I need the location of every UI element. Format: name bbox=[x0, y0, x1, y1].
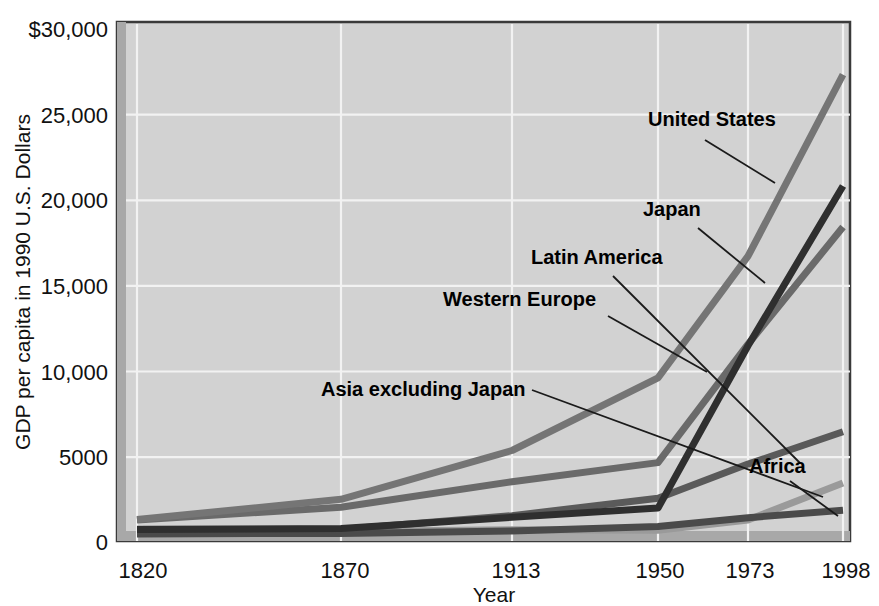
y-tick-labels: $30,000 25,000 20,000 15,000 10,000 5000… bbox=[28, 17, 108, 555]
chart-canvas: $30,000 25,000 20,000 15,000 10,000 5000… bbox=[0, 0, 879, 606]
y-tick-2: 20,000 bbox=[41, 188, 108, 213]
y-tick-3: 15,000 bbox=[41, 274, 108, 299]
x-tick-0: 1820 bbox=[119, 558, 168, 583]
y-axis-title: GDP per capita in 1990 U.S. Dollars bbox=[11, 114, 34, 450]
series-label-japan: Japan bbox=[643, 198, 701, 220]
y-tick-1: 25,000 bbox=[41, 103, 108, 128]
x-tick-3: 1950 bbox=[636, 558, 685, 583]
y-tick-6: 0 bbox=[96, 530, 108, 555]
x-axis-title: Year bbox=[473, 583, 515, 606]
series-label-latin-america: Latin America bbox=[531, 246, 663, 268]
x-tick-4: 1973 bbox=[726, 558, 775, 583]
y-tick-0: $30,000 bbox=[28, 17, 108, 42]
x-tick-5: 1998 bbox=[822, 558, 871, 583]
plot-background bbox=[117, 22, 850, 541]
x-tick-1: 1870 bbox=[321, 558, 370, 583]
x-tick-2: 1913 bbox=[492, 558, 541, 583]
y-tick-5: 5000 bbox=[59, 445, 108, 470]
plot-inner-shadow-left bbox=[117, 22, 126, 541]
series-label-asia-excluding-japan: Asia excluding Japan bbox=[321, 378, 526, 400]
series-label-africa: Africa bbox=[749, 455, 807, 477]
series-label-united-states: United States bbox=[648, 108, 776, 130]
gdp-line-chart: $30,000 25,000 20,000 15,000 10,000 5000… bbox=[0, 0, 879, 606]
x-tick-labels: 1820 1870 1913 1950 1973 1998 bbox=[119, 558, 871, 583]
y-tick-4: 10,000 bbox=[41, 360, 108, 385]
series-label-western-europe: Western Europe bbox=[443, 288, 596, 310]
